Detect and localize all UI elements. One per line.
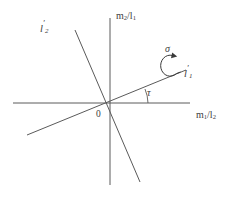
- horizontal-axis-label-sub2: 2: [213, 113, 216, 120]
- rotation-arrow-tail: [177, 72, 181, 74]
- vertical-axis-label-m: m: [116, 10, 124, 21]
- line-l1-prime-label-sub: 1: [189, 72, 192, 79]
- line-l2-prime-label: l′2: [40, 20, 48, 34]
- horizontal-axis-label-sub1: 1: [204, 113, 207, 120]
- horizontal-axis-label-m: m: [196, 109, 204, 120]
- sigma-symbol-label: σ: [165, 44, 170, 54]
- vertical-axis-label: m2/l1: [116, 11, 136, 21]
- rotation-arrowhead-sigma: [171, 52, 177, 58]
- tau-symbol-label: τ: [147, 88, 151, 98]
- rotation-arrow-sigma: [161, 55, 177, 76]
- line-l2-prime-label-sub: 2: [45, 27, 48, 34]
- horizontal-axis-label-slash: /l: [207, 109, 213, 120]
- figure-canvas: m2/l1 m1/l2 l′2 l′1 σ τ 0: [0, 0, 243, 204]
- vertical-axis-label-sub1: 2: [124, 14, 127, 21]
- vertical-axis-label-sub2: 1: [133, 14, 136, 21]
- diagram-svg: [0, 0, 243, 204]
- origin-label: 0: [96, 110, 101, 120]
- horizontal-axis-label: m1/l2: [196, 110, 216, 120]
- vertical-axis-label-slash: /l: [127, 10, 133, 21]
- line-l2-prime-stroke: [75, 30, 140, 182]
- line-l1-prime-label: l′1: [184, 65, 192, 79]
